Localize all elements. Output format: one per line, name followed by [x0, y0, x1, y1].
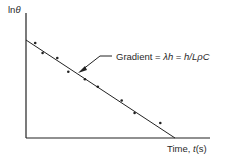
x-label-time: Time,	[167, 143, 193, 154]
x-label-unit: (s)	[196, 143, 207, 154]
data-point	[133, 112, 136, 115]
data-point	[56, 57, 59, 60]
data-point	[34, 42, 37, 45]
data-point	[120, 99, 123, 102]
x-axis-label: Time, t(s)	[167, 144, 207, 154]
y-axis-label: lnθ	[8, 5, 21, 15]
gradient-prefix: Gradient =	[116, 51, 163, 62]
gradient-equals: =	[173, 51, 184, 62]
chart-canvas	[0, 0, 245, 161]
data-point	[97, 86, 100, 89]
data-point	[159, 122, 162, 125]
y-label-theta: θ	[15, 4, 20, 15]
annotation-leader-line	[82, 56, 112, 70]
data-point	[41, 52, 44, 55]
gradient-rhs: h/LρC	[184, 51, 210, 62]
data-point	[67, 71, 70, 74]
gradient-lambda-h: λh	[163, 51, 173, 62]
data-point	[84, 78, 87, 81]
gradient-annotation: Gradient = λh = h/LρC	[116, 52, 210, 62]
